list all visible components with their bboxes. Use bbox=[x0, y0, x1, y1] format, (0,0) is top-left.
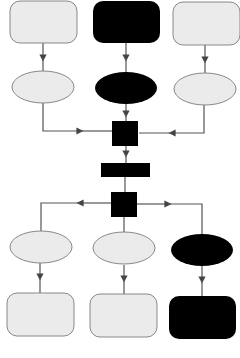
middle-bar[interactable] bbox=[101, 163, 150, 177]
flowchart-diagram bbox=[0, 0, 240, 358]
lower-left-ellipse[interactable] bbox=[10, 231, 72, 263]
upper-left-ellipse[interactable] bbox=[12, 71, 74, 103]
lower-right-ellipse[interactable] bbox=[171, 234, 233, 266]
upper-center-ellipse[interactable] bbox=[95, 72, 157, 104]
merge-square[interactable] bbox=[112, 121, 138, 146]
split-square[interactable] bbox=[111, 192, 137, 217]
edge-right-merge bbox=[172, 104, 204, 133]
top-center-box[interactable] bbox=[93, 1, 160, 43]
top-left-box[interactable] bbox=[10, 1, 77, 43]
lower-center-ellipse[interactable] bbox=[93, 232, 155, 264]
bottom-center-box[interactable] bbox=[90, 294, 157, 337]
edge-left-merge bbox=[43, 103, 80, 131]
top-right-box[interactable] bbox=[173, 2, 240, 45]
upper-right-ellipse[interactable] bbox=[174, 73, 236, 105]
bottom-left-box[interactable] bbox=[7, 293, 74, 336]
bottom-right-box[interactable] bbox=[169, 296, 236, 339]
